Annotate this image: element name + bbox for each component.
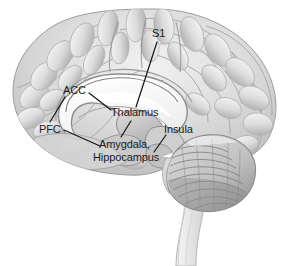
- label-amygdala: Amygdala,: [99, 138, 150, 150]
- label-acc: ACC: [63, 84, 86, 96]
- brain-diagram-figure: S1 ACC Thalamus PFC Insula Amygdala, Hip…: [0, 0, 290, 266]
- label-insula: Insula: [164, 123, 193, 135]
- label-thalamus: Thalamus: [111, 106, 159, 118]
- label-hippocampus: Hippocampus: [93, 151, 159, 163]
- label-pfc: PFC: [39, 123, 61, 135]
- label-s1: S1: [152, 27, 165, 39]
